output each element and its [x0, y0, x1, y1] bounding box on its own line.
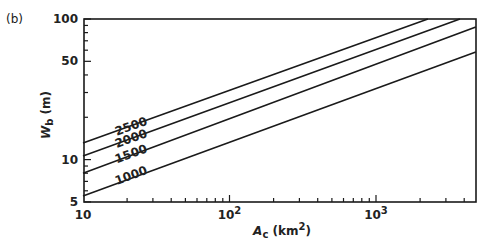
series-label-1000: 1000: [113, 163, 149, 188]
y-tick-label: 100: [53, 12, 78, 26]
y-tick-label: 5: [70, 195, 78, 209]
x-tick-label: 103: [364, 205, 388, 222]
y-axis-title: Wb (m): [39, 91, 55, 139]
log-log-line-chart: 2500200015001000 1010210351050100Ac (km2…: [0, 0, 495, 245]
y-tick-label: 10: [61, 153, 78, 167]
axis-labels: 1010210351050100Ac (km2)Wb (m): [39, 12, 388, 240]
series-lines: 2500200015001000: [83, 19, 476, 196]
x-axis-title: Ac (km2): [252, 221, 311, 240]
x-tick-label: 10: [75, 208, 92, 222]
y-tick-label: 50: [61, 54, 78, 68]
x-tick-label: 102: [218, 205, 242, 222]
